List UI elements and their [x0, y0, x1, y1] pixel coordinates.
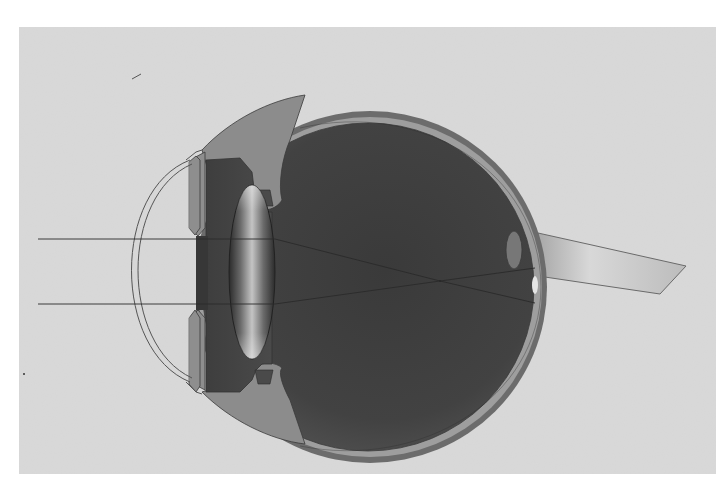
optic-disc — [532, 276, 538, 294]
iris-lower-front — [189, 310, 200, 392]
iris-upper-front — [189, 156, 200, 235]
pupil-opening — [196, 236, 208, 310]
lens-sheen — [229, 185, 275, 359]
eye-diagram — [0, 0, 725, 486]
zonule-bottom — [255, 370, 273, 384]
macula — [506, 231, 522, 269]
speck — [23, 373, 25, 375]
focal-point — [439, 280, 441, 282]
